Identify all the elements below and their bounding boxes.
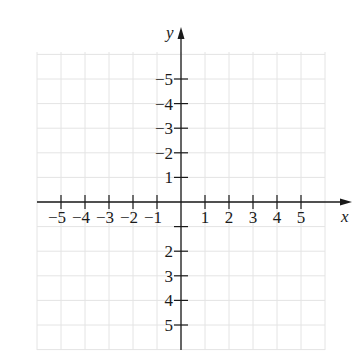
- x-tick-label: −4: [72, 208, 91, 227]
- y-tick-label: −4: [155, 95, 174, 114]
- y-tick-label: 4: [165, 291, 174, 310]
- y-tick-label: 3: [165, 267, 174, 286]
- coordinate-plane: −5−4−3−2−11234554321−2−3−4−5 x y: [0, 0, 364, 362]
- y-tick-label: 1: [165, 168, 174, 187]
- y-axis-arrow-icon: [178, 27, 185, 39]
- y-tick-label: −3: [155, 119, 173, 138]
- y-tick-label: −2: [155, 144, 173, 163]
- x-tick-label: 5: [297, 208, 306, 227]
- x-tick-label: 2: [225, 208, 234, 227]
- x-tick-label: −2: [120, 208, 138, 227]
- x-tick-label: −3: [96, 208, 114, 227]
- x-tick-label: −1: [144, 208, 162, 227]
- y-tick-label: 2: [165, 242, 174, 261]
- x-tick-label: 1: [201, 208, 210, 227]
- x-axis-arrow-icon: [340, 199, 352, 206]
- x-tick-label: 3: [249, 208, 258, 227]
- y-axis-label: y: [164, 23, 174, 42]
- x-axis-label: x: [340, 207, 349, 226]
- y-tick-label: 5: [165, 316, 174, 335]
- y-tick-label: −5: [155, 70, 173, 89]
- x-tick-label: −5: [48, 208, 66, 227]
- x-tick-label: 4: [273, 208, 282, 227]
- axes: [37, 27, 352, 350]
